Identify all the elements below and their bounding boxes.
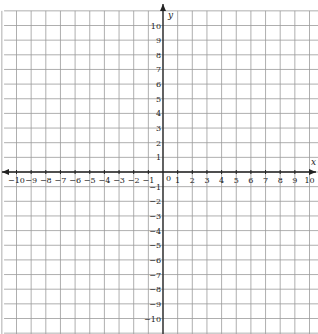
x-tick-label: −4 [99, 176, 111, 185]
y-tick-label: −5 [149, 241, 161, 250]
y-tick-label: 6 [156, 80, 161, 89]
x-axis-label: x [311, 157, 316, 167]
x-tick-label: −6 [69, 176, 81, 185]
x-tick-label: −2 [128, 176, 140, 185]
y-tick-label: 10 [151, 22, 161, 31]
x-tick-label: −9 [25, 176, 37, 185]
x-tick-label: 4 [219, 176, 224, 185]
y-tick-label: 7 [156, 65, 161, 74]
x-tick-label: 1 [175, 176, 180, 185]
x-tick-label: 8 [278, 176, 283, 185]
x-tick-label: 5 [234, 176, 239, 185]
y-tick-label: −9 [149, 300, 161, 309]
x-tick-label: 9 [292, 176, 297, 185]
y-tick-label: −1 [149, 183, 161, 192]
y-axis-label: y [167, 10, 174, 20]
x-tick-label: 10 [304, 176, 314, 185]
y-tick-label: −6 [149, 256, 161, 265]
y-tick-label: −3 [149, 212, 161, 221]
y-tick-label: 2 [156, 139, 161, 148]
x-tick-label: 6 [248, 176, 253, 185]
y-tick-label: 8 [156, 51, 161, 60]
x-axis-arrow-left-icon [2, 169, 9, 175]
y-tick-label: 9 [156, 36, 161, 45]
y-tick-label: 4 [156, 109, 161, 118]
x-tick-label: −8 [40, 176, 52, 185]
coordinate-grid: −10−9−8−7−6−5−4−3−2−11234567891010987654… [0, 0, 318, 334]
x-axis-arrow-right-icon [309, 169, 316, 175]
y-tick-label: −2 [149, 197, 161, 206]
x-tick-label: 2 [190, 176, 195, 185]
y-tick-label: 5 [156, 95, 161, 104]
y-axis-arrow-up-icon [160, 4, 166, 11]
y-tick-label: −4 [149, 227, 161, 236]
origin-label: 0 [166, 174, 171, 183]
y-tick-label: −8 [149, 285, 161, 294]
y-tick-label: −7 [149, 271, 161, 280]
x-tick-label: −5 [84, 176, 96, 185]
x-tick-label: 3 [204, 176, 209, 185]
y-tick-label: 3 [156, 124, 161, 133]
y-tick-label: −10 [144, 315, 161, 324]
x-tick-label: −7 [55, 176, 67, 185]
x-tick-label: −3 [113, 176, 125, 185]
x-tick-label: −10 [8, 176, 25, 185]
y-tick-label: 1 [156, 153, 161, 162]
x-tick-label: 7 [263, 176, 268, 185]
